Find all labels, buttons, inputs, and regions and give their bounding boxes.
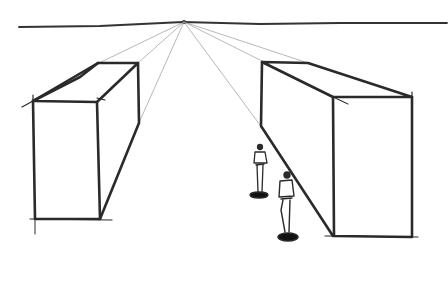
sketch-canvas — [0, 0, 448, 282]
right-box — [261, 62, 418, 237]
horizon-line — [19, 22, 447, 27]
perspective-guides — [97, 22, 348, 125]
perspective-sketch: Hand-drawn one-point perspective sketch:… — [0, 0, 448, 282]
figure-far — [250, 145, 268, 199]
figure-near — [278, 172, 298, 241]
left-box — [22, 63, 139, 234]
